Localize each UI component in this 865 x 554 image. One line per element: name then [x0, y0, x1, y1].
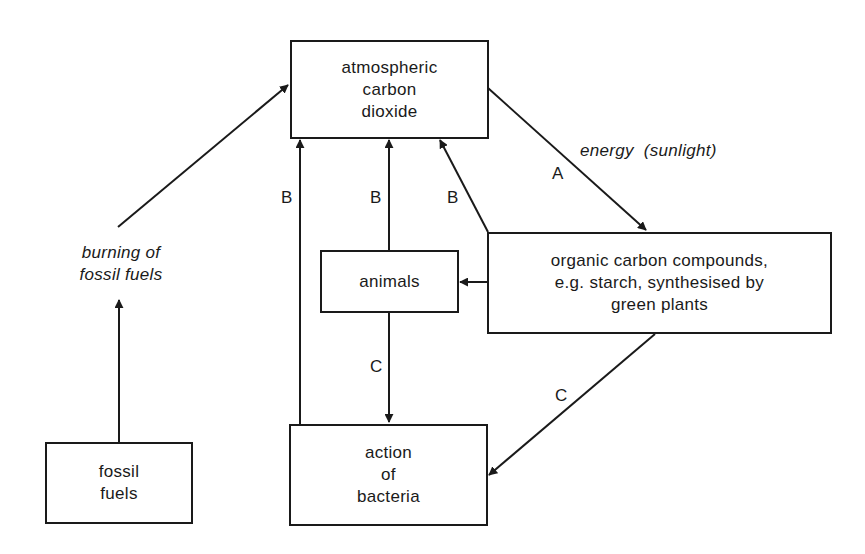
node-label: animals [359, 271, 420, 293]
node-organic-carbon-compounds: organic carbon compounds, e.g. starch, s… [487, 232, 832, 334]
node-label: fossil fuels [99, 461, 140, 505]
label-c-organic: C [555, 385, 568, 407]
label-burning-of-fossil-fuels: burning of fossil fuels [46, 242, 196, 286]
arrow-burning-to-atmosphere [118, 85, 288, 227]
label-energy-sunlight: energy (sunlight) [580, 140, 717, 162]
label-b-animals: B [370, 187, 382, 209]
label-c-animals: C [370, 356, 383, 378]
node-atmospheric-carbon-dioxide: atmospheric carbon dioxide [290, 40, 489, 139]
arrow-c-organic-to-bacteria [489, 334, 655, 475]
node-fossil-fuels: fossil fuels [45, 442, 193, 524]
node-action-of-bacteria: action of bacteria [289, 424, 488, 526]
label-a: A [552, 163, 564, 185]
node-label: atmospheric carbon dioxide [342, 57, 438, 123]
node-label: organic carbon compounds, e.g. starch, s… [551, 250, 768, 316]
node-label: action of bacteria [357, 442, 420, 508]
label-b-organic: B [447, 187, 459, 209]
label-b-bacteria: B [281, 187, 293, 209]
node-animals: animals [320, 250, 459, 313]
arrow-b-organic-to-atmosphere [440, 140, 488, 232]
